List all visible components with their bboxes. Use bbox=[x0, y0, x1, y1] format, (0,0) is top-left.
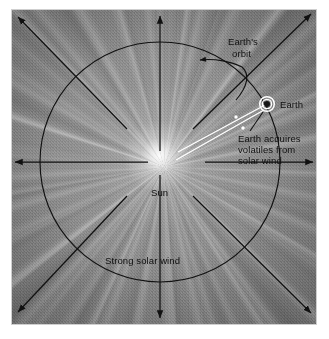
label-volatiles-line2: volatiles from bbox=[238, 144, 295, 155]
solar-wind-photograph bbox=[11, 9, 317, 325]
label-volatiles-line1: Earth acquires bbox=[238, 133, 301, 144]
label-earths-orbit-line2: orbit bbox=[232, 48, 251, 59]
label-sun: Sun bbox=[151, 187, 168, 198]
label-volatiles-line3: solar wind bbox=[238, 155, 282, 166]
label-earth: Earth bbox=[280, 99, 303, 110]
label-earths-orbit-line1: Earth's bbox=[228, 36, 258, 47]
label-strong-solar-wind: Strong solar wind bbox=[105, 255, 180, 266]
film-grain bbox=[12, 10, 316, 324]
solar-wind-figure: Earth's orbit Earth Earth acquires volat… bbox=[0, 0, 329, 339]
